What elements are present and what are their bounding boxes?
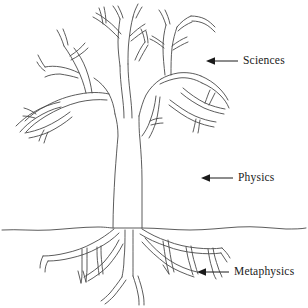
left-main-limb — [16, 29, 109, 143]
right-main-limb — [142, 10, 229, 138]
annotation-label-sciences: Sciences — [239, 55, 285, 67]
tree-of-knowledge-illustration — [0, 0, 308, 308]
annotation-physics: Physics — [200, 172, 275, 184]
annotation-label-physics: Physics — [234, 172, 275, 184]
left-arrow-icon — [196, 266, 230, 278]
annotation-metaphysics: Metaphysics — [196, 266, 294, 278]
center-branches — [93, 4, 148, 66]
tree-trunk — [113, 114, 142, 228]
trunk-fork — [94, 64, 161, 118]
annotation-sciences: Sciences — [205, 55, 285, 67]
left-arrow-icon — [200, 172, 234, 184]
annotation-label-metaphysics: Metaphysics — [230, 266, 294, 278]
ground-line — [2, 227, 306, 231]
left-arrow-icon — [205, 55, 239, 67]
